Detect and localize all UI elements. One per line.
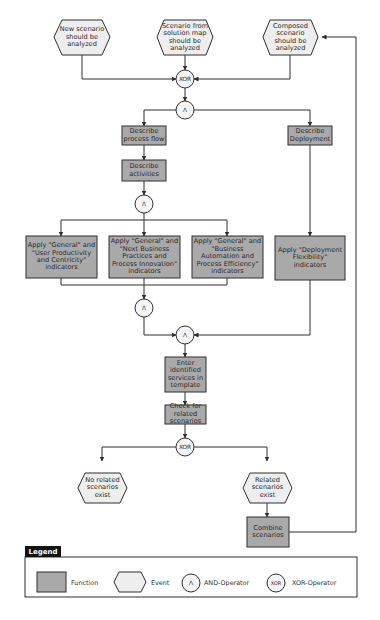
function-enter-services (165, 357, 206, 392)
legend-and-swatch (182, 574, 200, 592)
legend-function-label: Function (71, 579, 98, 587)
function-describe-process-flow (122, 126, 166, 145)
function-apply-next-business (109, 236, 180, 278)
event-new-scenario (54, 20, 110, 55)
function-describe-deployment (288, 126, 332, 145)
event-no-related (78, 473, 127, 503)
connector-new-to-xor (82, 55, 176, 79)
function-apply-user-productivity (26, 236, 97, 278)
operator-and-join-apply (135, 299, 153, 317)
event-related (243, 473, 292, 503)
connector-and-to-deployment (194, 110, 310, 126)
legend-function-swatch (37, 572, 66, 592)
connector-feedback-loop (289, 37, 356, 532)
connector-xor-to-related (194, 447, 267, 461)
function-check-related (165, 405, 206, 424)
operator-and-split-activities (135, 195, 153, 213)
legend-and-label: AND-Operator (204, 579, 249, 587)
connector-xor-to-no-related (102, 447, 176, 461)
legend-event-swatch (114, 572, 146, 592)
function-apply-deployment-flexibility (275, 236, 345, 280)
connector-and-to-process-flow (144, 110, 176, 126)
function-describe-activities (122, 160, 166, 181)
operator-xor-bottom (176, 438, 194, 456)
connector-deploy-to-final-and (194, 280, 310, 335)
legend-title: Legend (25, 546, 61, 557)
function-apply-business-automation (192, 236, 263, 278)
operator-xor-top (176, 70, 194, 88)
event-composed (263, 20, 318, 55)
connector-composed-to-xor (194, 55, 290, 79)
operator-and-join-final (176, 326, 194, 344)
legend-xor-label: XOR-Operator (292, 579, 336, 587)
event-solution-map (157, 20, 213, 55)
function-combine-scenarios (247, 517, 289, 547)
connectors (61, 37, 356, 532)
epc-diagram (0, 0, 380, 620)
legend-event-label: Event (151, 579, 169, 587)
connector-and-to-final-and (144, 317, 176, 335)
legend-xor-swatch (267, 574, 285, 592)
operator-and-split-top (176, 101, 194, 119)
